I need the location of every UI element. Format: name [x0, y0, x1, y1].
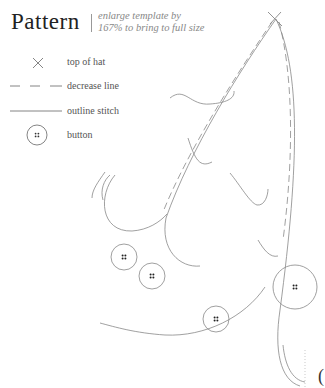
hat-button-1 [111, 244, 137, 270]
x-mark-icon [33, 58, 43, 68]
legend-decrease-line-label: decrease line [67, 80, 119, 91]
hat-button-4 [273, 265, 317, 309]
legend-button-label: button [67, 129, 93, 140]
hat-button-3 [203, 306, 229, 332]
button-icon [27, 125, 47, 145]
hat-outline [92, 19, 305, 386]
legend-outline-stitch-label: outline stitch [67, 105, 119, 116]
cropped-edge-glyph: ( [318, 366, 324, 387]
decrease-lines [163, 22, 291, 240]
pattern-drawing [0, 0, 325, 388]
hat-button-2 [139, 263, 165, 289]
legend-top-of-hat-label: top of hat [67, 56, 105, 67]
